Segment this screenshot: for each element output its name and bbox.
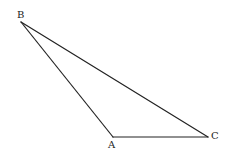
triangle-diagram: B A C	[0, 0, 233, 155]
edge-bc	[21, 22, 208, 137]
edge-ab	[21, 22, 113, 137]
vertex-label-a: A	[107, 139, 116, 150]
vertex-label-b: B	[17, 9, 24, 20]
vertex-label-c: C	[211, 130, 219, 141]
